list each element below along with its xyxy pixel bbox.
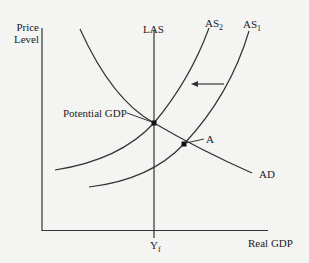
potential-gdp-label: Potential GDP (63, 107, 127, 119)
point-a-label: A (206, 133, 214, 145)
as1-label-main: AS (243, 18, 257, 30)
potential-gdp-leader (127, 113, 152, 122)
yf-sub: f (158, 245, 161, 254)
as2-label-sub: 2 (219, 23, 223, 32)
yf-main: Y (150, 239, 158, 251)
ad-label: AD (259, 168, 275, 180)
ad-as-diagram (0, 0, 309, 263)
point-a (182, 142, 187, 147)
as2-label: AS2 (205, 17, 223, 31)
x-axis-label: Real GDP (248, 237, 293, 249)
ad-curve (80, 29, 252, 173)
shift-arrow-head-icon (191, 81, 198, 87)
as1-label: AS1 (243, 18, 261, 32)
as2-curve (55, 28, 209, 170)
as2-label-main: AS (205, 17, 219, 29)
y-axis-label-line1: Price (14, 21, 39, 33)
y-axis-label-line2: Level (14, 33, 39, 45)
y-axis-label: Price Level (14, 21, 39, 45)
yf-tick-label: Yf (150, 239, 161, 253)
potential-gdp-point (152, 121, 157, 126)
las-label: LAS (143, 23, 164, 35)
as1-label-sub: 1 (257, 24, 261, 33)
